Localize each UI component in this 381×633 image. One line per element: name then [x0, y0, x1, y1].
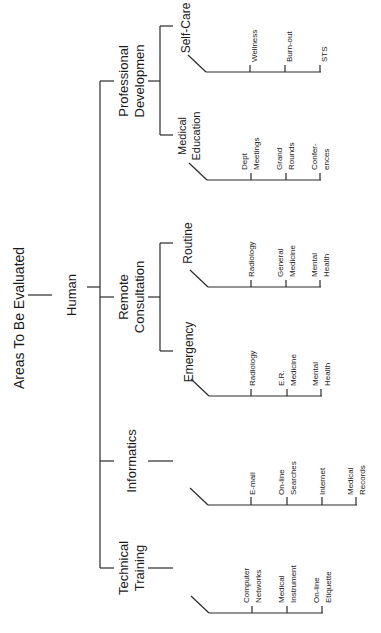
- leaf-routine-general-medicine-l2: Medicine: [288, 244, 297, 277]
- node-informatics: Informatics: [124, 429, 139, 493]
- leaf-computer-networks-l2: Networks: [254, 570, 263, 603]
- leaf-emergency-mental-health-l2: Health: [323, 363, 332, 386]
- leaf-conferences-l1: Confer-: [310, 143, 319, 170]
- leaf-emergency-mental-health-l1: Mental: [311, 362, 320, 386]
- hierarchy-diagram: Areas To Be Evaluated Human Professional…: [0, 0, 381, 633]
- emergency-diagonal: [191, 379, 209, 396]
- node-remote-consultation-l1: Remote: [116, 274, 131, 320]
- leaf-dept-meetings-l1: Dept: [240, 152, 249, 170]
- leaf-burnout: Burn-out: [285, 31, 294, 62]
- leaf-routine-general-medicine-l1: General: [276, 248, 285, 277]
- node-emergency: Emergency: [182, 322, 196, 383]
- leaf-computer-networks-l1: Computer: [242, 568, 251, 603]
- node-professional-development-l1: Professional: [116, 45, 131, 117]
- node-technical-training-l2: Training: [132, 545, 147, 591]
- leaf-online-searches-l1: On-line: [277, 469, 286, 495]
- leaf-grand-rounds-l2: Rounds: [287, 142, 296, 170]
- diagram-title: Areas To Be Evaluated: [11, 247, 27, 389]
- leaf-routine-mental-health-l2: Health: [322, 254, 331, 277]
- leaf-internet: Internet: [318, 467, 327, 495]
- leaf-online-etiquette-l2: Etiquette: [324, 571, 333, 603]
- node-medical-education-l1: Medical: [176, 117, 188, 155]
- medical-education-diagonal: [189, 163, 207, 180]
- leaf-routine-mental-health-l1: Mental: [310, 253, 319, 277]
- leaf-emergency-radiology: Radiology: [248, 350, 257, 386]
- leaf-dept-meetings-l2: Meetings: [252, 138, 261, 170]
- leaf-medical-instrument-l1: Medical: [277, 575, 286, 603]
- leaf-email: E-mail: [248, 472, 257, 495]
- leaf-emergency-er-medicine-l2: Medicine: [289, 353, 298, 386]
- node-professional-development-l2: Developmen: [132, 45, 147, 118]
- leaf-sts: STS: [320, 46, 329, 62]
- leaf-routine-radiology: Radiology: [247, 241, 256, 277]
- self-care-diagonal: [188, 55, 206, 72]
- node-technical-training-l1: Technical: [116, 541, 131, 595]
- technical-training-diagonal: [191, 596, 209, 613]
- node-medical-education-l2: Education: [190, 112, 202, 161]
- leaf-medical-records-l1: Medical: [346, 467, 355, 495]
- leaf-online-searches-l2: Searches: [289, 461, 298, 495]
- leaf-grand-rounds-l1: Grand: [275, 148, 284, 170]
- leaf-conferences-l2: ences: [322, 149, 331, 170]
- routine-diagonal: [190, 270, 208, 287]
- leaf-wellness: Wellness: [250, 30, 259, 62]
- node-remote-consultation-l2: Consultation: [132, 261, 147, 333]
- node-self-care: Self-Care: [179, 2, 193, 53]
- leaf-medical-instrument-l2: Instrument: [289, 564, 298, 603]
- leaf-medical-records-l2: Records: [358, 465, 367, 495]
- leaf-online-etiquette-l1: On-line: [312, 577, 321, 603]
- leaf-emergency-er-medicine-l1: E.R.: [277, 370, 286, 386]
- node-routine: Routine: [181, 222, 195, 264]
- node-human: Human: [64, 274, 79, 316]
- informatics-diagonal: [190, 488, 208, 505]
